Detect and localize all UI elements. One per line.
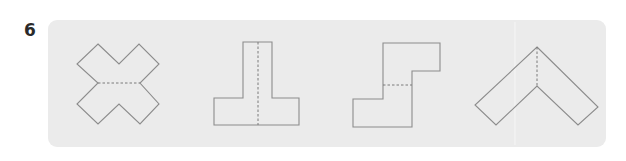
- shapes-canvas: [0, 0, 626, 161]
- shape-4-chevron[interactable]: [475, 47, 598, 125]
- chevron-outline: [475, 47, 598, 125]
- shape-3-s-step[interactable]: [353, 43, 440, 127]
- shape-2-inverted-t[interactable]: [214, 42, 299, 125]
- shape-1-cross[interactable]: [77, 44, 159, 124]
- inverted-t-outline: [214, 42, 299, 125]
- cross-outline: [77, 44, 159, 124]
